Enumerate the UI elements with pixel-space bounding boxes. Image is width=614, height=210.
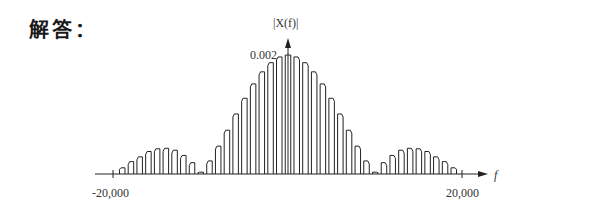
spectrum-bar: [242, 98, 248, 174]
x-tick-label-neg: -20,000: [92, 186, 129, 200]
spectrum-bar: [329, 98, 335, 174]
y-tick-label: 0.002: [250, 48, 277, 62]
spectrum-bar: [128, 162, 134, 174]
spectrum-bar: [224, 130, 230, 174]
spectrum-bar: [250, 84, 256, 174]
spectrum-bar: [189, 163, 195, 174]
spectrum-bar: [259, 72, 265, 174]
spectrum-bar: [338, 114, 344, 174]
x-tick-label-pos: 20,000: [446, 186, 479, 200]
spectrum-bar: [233, 114, 239, 174]
spectrum-bar: [346, 130, 352, 174]
spectrum-chart: |X(f)| 0.002 f -20,000 20,000: [0, 0, 614, 210]
spectrum-bar: [425, 152, 431, 174]
spectrum-bar: [320, 84, 326, 174]
x-axis-arrow-icon: [478, 171, 488, 177]
spectrum-bar: [407, 148, 413, 174]
spectrum-bar: [207, 161, 213, 174]
spectrum-bar: [416, 149, 422, 174]
spectrum-bar: [172, 150, 178, 174]
spectrum-bar: [119, 168, 125, 174]
spectrum-bar: [381, 163, 387, 174]
spectrum-bar: [442, 162, 448, 174]
spectrum-bar: [399, 150, 405, 174]
spectrum-bar: [303, 63, 309, 174]
spectrum-bar: [364, 161, 370, 174]
y-axis-title: |X(f)|: [273, 16, 298, 30]
spectrum-bar: [163, 148, 169, 174]
x-axis-title: f: [494, 168, 499, 182]
spectrum-bar: [434, 157, 440, 174]
spectrum-bar: [154, 149, 160, 174]
spectrum-bar: [294, 57, 300, 174]
spectrum-bar: [137, 157, 143, 174]
spectrum-bar: [268, 63, 274, 174]
spectrum-bar: [146, 152, 152, 174]
spectrum-bar: [277, 57, 283, 174]
spectrum-bar: [181, 155, 187, 174]
spectrum-bar: [311, 72, 317, 174]
spectrum-bar: [451, 168, 457, 174]
spectrum-bar: [355, 146, 361, 174]
y-axis-arrow-icon: [285, 38, 291, 48]
spectrum-bar: [215, 146, 221, 174]
spectrum-bar: [390, 155, 396, 174]
